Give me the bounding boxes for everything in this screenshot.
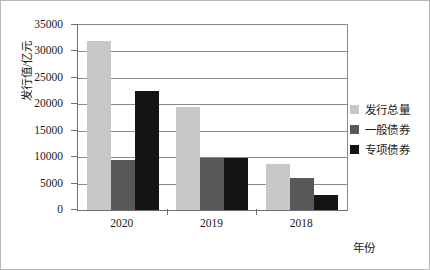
legend-label: 一般债券: [365, 121, 410, 137]
y-axis-tick-label: 35000: [34, 18, 63, 30]
y-axis-tick-label: 5000: [40, 177, 63, 189]
legend-item[interactable]: 发行总量: [350, 99, 428, 119]
bar[interactable]: [111, 160, 135, 210]
bar-group: [257, 25, 347, 210]
legend-item[interactable]: 专项债券: [350, 139, 428, 159]
bar-chart-figure: 发行值/亿元 050001000015000200002500030000350…: [0, 0, 430, 270]
bar[interactable]: [266, 164, 290, 211]
y-axis-tick-label: 25000: [34, 71, 63, 83]
bar[interactable]: [87, 41, 111, 210]
y-axis-tick-labels: 05000100001500020000250003000035000: [31, 24, 71, 209]
x-axis-title: 年份: [353, 239, 376, 255]
legend-label: 发行总量: [365, 101, 410, 117]
legend-swatch-icon: [350, 145, 359, 154]
x-axis-tick-label: 2020: [110, 217, 133, 229]
legend: 发行总量一般债券专项债券: [350, 99, 428, 159]
x-axis-tick-mark: [167, 209, 168, 215]
bar[interactable]: [176, 107, 200, 210]
y-axis-tick-label: 10000: [34, 150, 63, 162]
bar[interactable]: [200, 158, 224, 210]
x-axis-tick-marks: [77, 209, 346, 215]
bar[interactable]: [224, 158, 248, 210]
legend-label: 专项债券: [365, 141, 410, 157]
bar[interactable]: [135, 91, 159, 210]
legend-item[interactable]: 一般债券: [350, 119, 428, 139]
legend-swatch-icon: [350, 105, 359, 114]
y-axis-tick-label: 0: [57, 203, 63, 215]
x-axis-tick-label: 2019: [200, 217, 223, 229]
bar[interactable]: [314, 195, 338, 210]
y-axis-tick-label: 15000: [34, 124, 63, 136]
x-axis-tick-label: 2018: [290, 217, 313, 229]
y-axis-tick-label: 20000: [34, 97, 63, 109]
y-axis-tick-label: 30000: [34, 44, 63, 56]
x-axis-tick-labels: 202020192018: [77, 217, 346, 235]
x-axis-tick-mark: [256, 209, 257, 215]
bar-group: [78, 25, 168, 210]
bar-group: [168, 25, 258, 210]
plot-area: [77, 24, 348, 211]
legend-swatch-icon: [350, 125, 359, 134]
bar[interactable]: [290, 178, 314, 210]
